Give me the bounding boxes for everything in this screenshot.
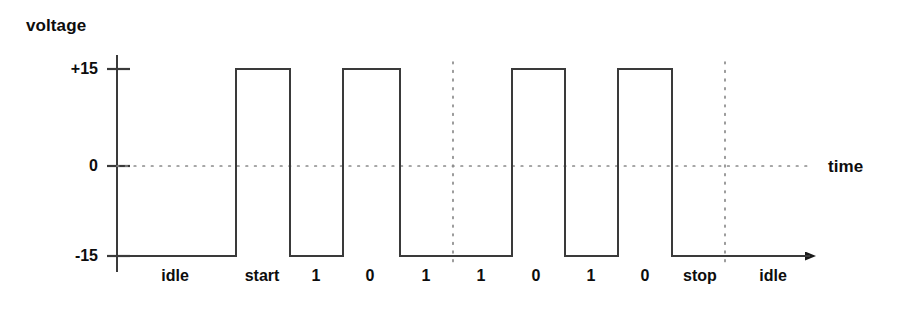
bit-label-d0: 1 (312, 267, 321, 285)
bit-label-idle-end: idle (759, 267, 787, 285)
y-tick-label-plus15: +15 (40, 60, 98, 78)
y-tick-label-minus15: -15 (40, 247, 98, 265)
bit-label-d4: 0 (532, 267, 541, 285)
bit-label-d2: 1 (422, 267, 431, 285)
y-tick-label-zero: 0 (40, 157, 98, 175)
serial-waveform-diagram: voltage time +15 0 -15 idle start 1 0 1 … (0, 0, 910, 319)
bit-label-d3: 1 (477, 267, 486, 285)
bit-label-idle-start: idle (161, 267, 189, 285)
bit-label-d1: 0 (366, 267, 375, 285)
voltage-axis-label: voltage (26, 16, 86, 36)
bit-label-d6: 0 (641, 267, 650, 285)
bit-label-d5: 1 (587, 267, 596, 285)
bit-label-start: start (245, 267, 280, 285)
signal-waveform (117, 69, 810, 256)
time-axis-label: time (828, 157, 863, 177)
bit-label-stop: stop (683, 267, 717, 285)
